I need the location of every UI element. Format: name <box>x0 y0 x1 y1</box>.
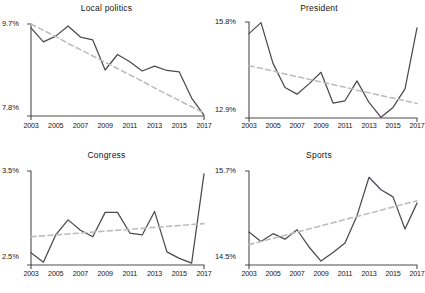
x-tick-label: 2009 <box>98 269 113 278</box>
x-tick-label: 2005 <box>265 269 280 278</box>
x-tick-label: 2005 <box>48 269 63 278</box>
x-tick-label: 2007 <box>73 121 88 130</box>
x-tick-label: 2003 <box>23 121 38 130</box>
x-tick-label: 2003 <box>241 269 256 278</box>
x-tick-label: 2013 <box>361 269 376 278</box>
x-tick-label: 2009 <box>313 121 328 130</box>
x-tick-label: 2015 <box>385 121 400 130</box>
panel-local-politics: Local politics 9.7% 7.8% 200320052007200… <box>0 0 213 147</box>
x-tick-label: 2011 <box>123 121 138 130</box>
panel-congress: Congress 3.5% 2.5% 200320052007200920112… <box>0 147 213 293</box>
x-tick-label: 2015 <box>172 269 187 278</box>
x-tick-label: 2003 <box>241 121 256 130</box>
x-tick-label: 2015 <box>172 121 187 130</box>
x-tick-label: 2009 <box>313 269 328 278</box>
x-tick-label: 2007 <box>289 269 304 278</box>
x-tick-label: 2017 <box>409 269 424 278</box>
x-tick-label: 2007 <box>289 121 304 130</box>
x-tick-label: 2005 <box>265 121 280 130</box>
panel-president: President 15.8% 12.9% 200320052007200920… <box>213 0 425 147</box>
x-tick-label: 2017 <box>409 121 424 130</box>
x-tick-label: 2009 <box>98 121 113 130</box>
x-tick-label: 2017 <box>196 121 211 130</box>
x-tick-label: 2003 <box>23 269 38 278</box>
x-tick-label: 2017 <box>196 269 211 278</box>
x-tick-label: 2005 <box>48 121 63 130</box>
panel-sports: Sports 15.7% 14.5% 200320052007200920112… <box>213 147 425 293</box>
chart-grid: Local politics 9.7% 7.8% 200320052007200… <box>0 0 425 293</box>
x-tick-label: 2011 <box>123 269 138 278</box>
x-tick-label: 2011 <box>338 269 353 278</box>
x-tick-label: 2013 <box>147 121 162 130</box>
x-tick-label: 2007 <box>73 269 88 278</box>
x-tick-label: 2015 <box>385 269 400 278</box>
x-tick-label: 2013 <box>147 269 162 278</box>
x-tick-label: 2013 <box>361 121 376 130</box>
x-tick-label: 2011 <box>338 121 353 130</box>
